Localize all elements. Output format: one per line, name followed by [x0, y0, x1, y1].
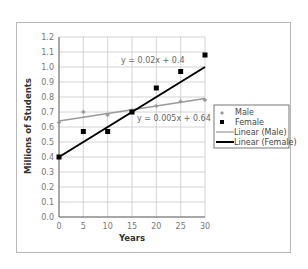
x-tick-label: 25	[176, 222, 186, 231]
x-tick-label: 5	[81, 222, 86, 231]
y-tick-label: 0.6	[41, 123, 54, 132]
legend: Male Female Linear (Male) Linear (Female…	[214, 105, 297, 148]
y-tick-label: 1.2	[41, 33, 54, 42]
y-tick-label: 0.2	[41, 183, 54, 192]
scatter-chart: 0.00.10.20.30.40.50.60.70.80.91.01.11.2 …	[0, 0, 308, 269]
y-axis-title: Millions of Students	[23, 78, 33, 174]
legend-linear-male: Linear (Male)	[234, 128, 287, 137]
male-equation: y = 0.005x + 0.64	[137, 114, 211, 123]
female-point	[57, 155, 62, 160]
legend-male: Male	[235, 108, 254, 117]
male-point	[154, 104, 158, 108]
female-marker-icon	[220, 120, 224, 124]
y-tick-label: 0.0	[41, 213, 54, 222]
y-tick-label: 0.4	[41, 153, 54, 162]
x-axis-ticks: 051015202530	[56, 222, 210, 231]
male-point	[81, 110, 85, 114]
y-tick-label: 1.1	[41, 48, 54, 57]
x-tick-label: 30	[200, 222, 210, 231]
x-tick-label: 10	[103, 222, 113, 231]
female-point	[130, 110, 135, 115]
x-tick-label: 20	[151, 222, 161, 231]
female-point	[178, 69, 183, 74]
female-equation: y = 0.02x + 0.4	[121, 56, 185, 65]
y-axis-ticks: 0.00.10.20.30.40.50.60.70.80.91.01.11.2	[41, 33, 54, 222]
y-tick-label: 0.1	[41, 198, 54, 207]
female-point	[81, 129, 86, 134]
y-tick-label: 0.3	[41, 168, 54, 177]
x-tick-label: 0	[56, 222, 61, 231]
y-tick-label: 0.7	[41, 108, 54, 117]
female-point	[105, 129, 110, 134]
x-tick-label: 15	[127, 222, 137, 231]
y-tick-label: 0.8	[41, 93, 54, 102]
legend-female: Female	[235, 118, 264, 127]
y-tick-label: 0.5	[41, 138, 54, 147]
legend-linear-female: Linear (Female)	[234, 138, 297, 147]
female-point	[154, 86, 159, 91]
y-tick-label: 1.0	[41, 63, 54, 72]
y-tick-label: 0.9	[41, 78, 54, 87]
x-axis-title: Years	[118, 233, 145, 243]
female-point	[203, 53, 208, 58]
